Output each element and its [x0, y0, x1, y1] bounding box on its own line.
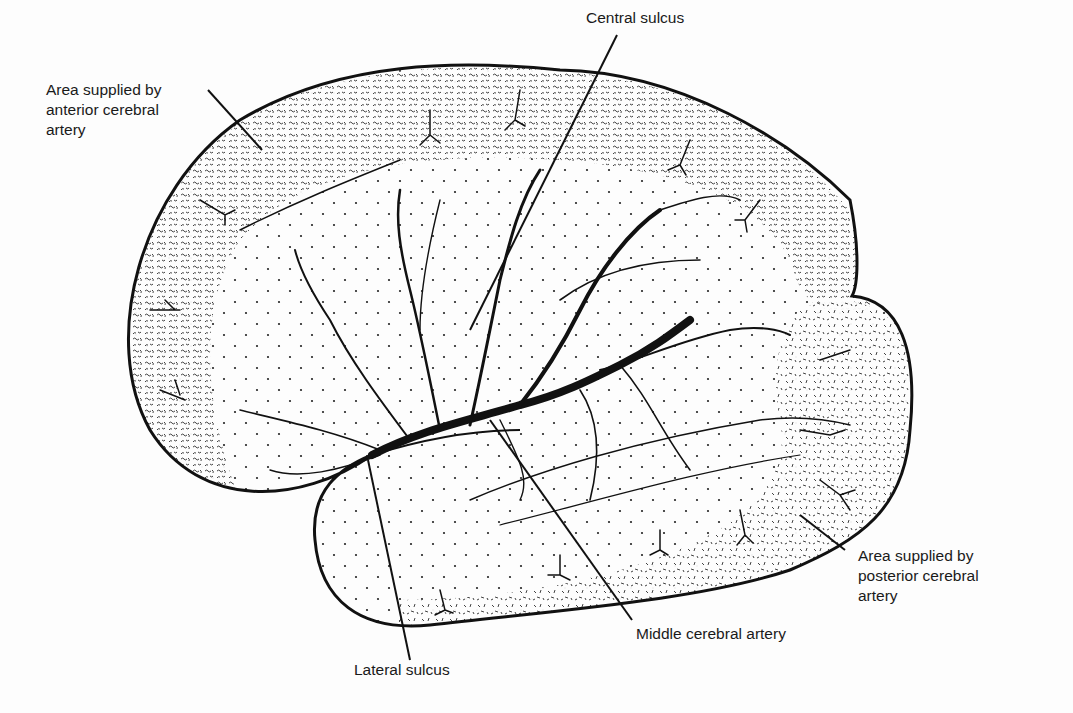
brain-diagram: Area supplied by anterior cerebral arter… — [0, 0, 1073, 713]
label-central-sulcus: Central sulcus — [586, 8, 684, 28]
label-posterior-cerebral-territory: Area supplied by posterior cerebral arte… — [858, 546, 979, 606]
label-anterior-cerebral-territory: Area supplied by anterior cerebral arter… — [46, 80, 161, 140]
label-middle-cerebral-artery: Middle cerebral artery — [636, 624, 786, 644]
label-lateral-sulcus: Lateral sulcus — [354, 660, 450, 680]
